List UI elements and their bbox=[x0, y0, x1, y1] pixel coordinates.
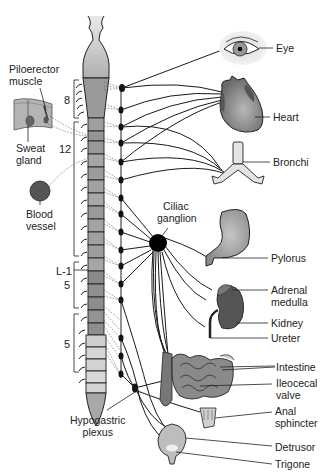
label-ileocecal-valve: Ileocecal valve bbox=[276, 377, 317, 401]
label-ciliac-ganglion: Ciliac ganglion bbox=[157, 200, 197, 224]
label-adrenal-medulla: Adrenal medulla bbox=[271, 284, 308, 308]
label-detrusor: Detrusor bbox=[275, 441, 315, 453]
label-intestine: Intestine bbox=[276, 361, 316, 373]
anal-sphincter-organ bbox=[200, 408, 272, 428]
label-trigone: Trigone bbox=[275, 458, 310, 470]
label-sweat-gland: Sweat gland bbox=[16, 142, 45, 166]
label-heart: Heart bbox=[273, 111, 299, 123]
label-piloerector-muscle: Piloerector muscle bbox=[9, 63, 59, 87]
ciliac-ganglion-node bbox=[149, 234, 167, 252]
segment-t12: 12 bbox=[59, 143, 71, 155]
label-eye: Eye bbox=[276, 42, 294, 54]
spinal-cord bbox=[76, 16, 109, 426]
eye-organ bbox=[219, 31, 273, 65]
label-hypogastric-plexus: Hypogastric plexus bbox=[70, 414, 125, 438]
label-kidney: Kidney bbox=[271, 317, 303, 329]
label-bronchi: Bronchi bbox=[273, 156, 309, 168]
skin-section bbox=[14, 88, 88, 194]
segment-l1: L-1 bbox=[56, 265, 72, 277]
bladder-organ bbox=[158, 424, 272, 464]
label-blood-vessel: Blood vessel bbox=[26, 208, 56, 232]
sympathetic-chain bbox=[104, 82, 138, 410]
intestine-organ bbox=[160, 352, 275, 406]
kidney-organ bbox=[210, 285, 268, 338]
heart-organ bbox=[220, 76, 270, 132]
label-ureter: Ureter bbox=[271, 332, 300, 344]
segment-s5: 5 bbox=[64, 338, 70, 350]
segment-t8: 8 bbox=[64, 94, 70, 106]
stomach-organ bbox=[206, 209, 268, 266]
blood-vessel bbox=[30, 181, 50, 205]
label-anal-sphincter: Anal sphincter bbox=[275, 405, 318, 429]
bronchi-organ bbox=[212, 142, 270, 184]
label-pylorus: Pylorus bbox=[271, 252, 306, 264]
segment-l5: 5 bbox=[64, 279, 70, 291]
